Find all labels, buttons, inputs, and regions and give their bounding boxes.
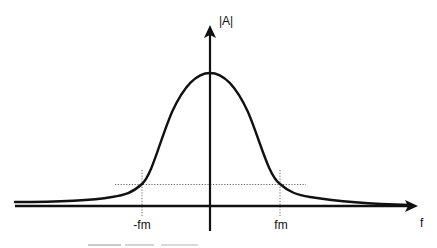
y-axis — [204, 25, 216, 231]
y-axis-label: |A| — [219, 14, 233, 28]
figure-caption-cropped — [88, 240, 198, 248]
spectrum-curve — [15, 73, 410, 205]
spectrum-diagram: |A| -fm fm f — [0, 0, 437, 248]
caption-fragment — [88, 244, 198, 246]
pos-fm-label: fm — [274, 218, 287, 232]
neg-fm-label: -fm — [133, 218, 150, 232]
x-axis-label: f — [420, 216, 424, 230]
